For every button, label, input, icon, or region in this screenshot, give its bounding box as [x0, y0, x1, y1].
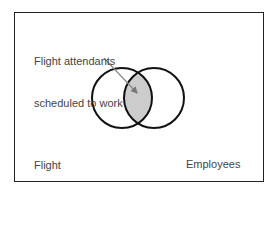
left-set-label: Flight attendants — [34, 130, 85, 194]
intersection-label: Flight attendants scheduled to work — [34, 26, 123, 124]
intersection-label-line-2: scheduled to work — [34, 96, 123, 110]
right-set-label: Employees scheduled to work — [186, 129, 240, 194]
intersection-label-line-1: Flight attendants — [34, 54, 123, 68]
left-set-label-line-1: Flight — [34, 158, 85, 172]
right-set-label-line-1: Employees — [186, 157, 240, 171]
